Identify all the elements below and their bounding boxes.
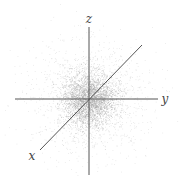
x-axis-label: x [29, 149, 36, 163]
x-axis [40, 45, 142, 150]
z-axis-label: z [85, 12, 93, 26]
y-axis-label: y [161, 92, 169, 106]
gaussian-axes-diagram: z y x [0, 0, 184, 178]
